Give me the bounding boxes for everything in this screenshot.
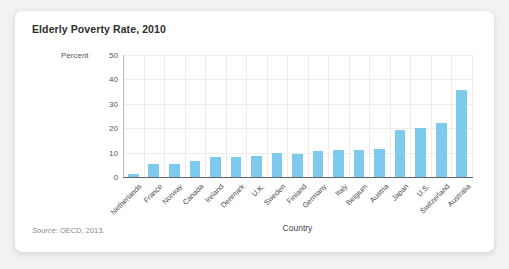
y-axis-tick-label: 40 (109, 75, 118, 84)
gridline-vertical (369, 55, 370, 177)
chart-card: Elderly Poverty Rate, 2010 Percent 01020… (15, 11, 494, 252)
gridline-vertical (349, 55, 350, 177)
gridline-vertical (144, 55, 145, 177)
gridline-vertical (246, 55, 247, 177)
y-axis-title: Percent (61, 51, 89, 60)
bar (313, 151, 324, 177)
bar (374, 149, 385, 177)
gridline-vertical (431, 55, 432, 177)
source-label: Source (32, 226, 56, 235)
gridline-vertical (267, 55, 268, 177)
bar (231, 157, 242, 177)
bar (148, 164, 159, 177)
y-axis-line (123, 55, 124, 178)
source-note: Source: OECD, 2013. (32, 226, 105, 235)
gridline-vertical (390, 55, 391, 177)
bar (395, 130, 406, 177)
gridline-vertical (308, 55, 309, 177)
source-text: : OECD, 2013. (56, 226, 105, 235)
gridline-vertical (451, 55, 452, 177)
bar (436, 123, 447, 177)
x-axis-line (123, 177, 473, 178)
plot-area (123, 55, 472, 177)
gridline-vertical (287, 55, 288, 177)
bar (272, 153, 283, 177)
bar (210, 157, 221, 177)
bar (292, 154, 303, 177)
bar (354, 150, 365, 177)
chart-plot-wrapper: Percent 01020304050 NetherlandsFranceNor… (15, 11, 494, 252)
y-axis-tick-label: 50 (109, 51, 118, 60)
x-axis-title: Country (123, 223, 472, 233)
gridline-vertical (410, 55, 411, 177)
bar (333, 150, 344, 177)
bar (190, 161, 201, 177)
y-axis-tick-labels: 01020304050 (93, 55, 118, 177)
gridline-vertical (472, 55, 473, 177)
y-axis-tick-label: 10 (109, 148, 118, 157)
gridline-horizontal (123, 79, 472, 80)
bar (456, 90, 467, 177)
y-axis-tick-label: 20 (109, 124, 118, 133)
bar (415, 128, 426, 177)
x-axis-tick-labels: NetherlandsFranceNorwayCanadaIrelandDenm… (123, 180, 472, 226)
bar (169, 164, 180, 177)
gridline-vertical (205, 55, 206, 177)
bar (251, 156, 262, 177)
y-axis-tick-label: 0 (114, 173, 118, 182)
gridline-vertical (226, 55, 227, 177)
gridline-vertical (328, 55, 329, 177)
gridline-horizontal (123, 104, 472, 105)
gridline-vertical (164, 55, 165, 177)
y-axis-tick-label: 30 (109, 99, 118, 108)
gridline-horizontal (123, 55, 472, 56)
gridline-vertical (185, 55, 186, 177)
